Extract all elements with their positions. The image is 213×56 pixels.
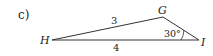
vertex-label-h: H bbox=[39, 34, 50, 47]
angle-arc-i bbox=[181, 30, 184, 40]
angle-label-i: 30° bbox=[164, 28, 181, 39]
side-hg bbox=[52, 17, 163, 40]
problem-label: c) bbox=[18, 8, 29, 22]
vertex-label-i: I bbox=[200, 36, 206, 49]
side-label-hg: 3 bbox=[111, 15, 117, 26]
side-label-hi: 4 bbox=[113, 42, 119, 53]
vertex-label-g: G bbox=[158, 4, 167, 17]
triangle-diagram: c) H G I 3 4 30° bbox=[0, 0, 213, 56]
